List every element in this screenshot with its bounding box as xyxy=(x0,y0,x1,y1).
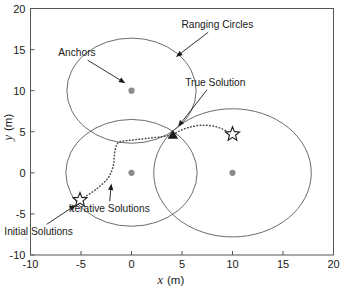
y-axis-title-var: y xyxy=(1,135,15,143)
anchor-marker-0 xyxy=(128,88,134,94)
y-tick-label-5: 15 xyxy=(13,44,25,56)
x-axis-title-unit: (m) xyxy=(167,274,184,286)
y-axis-title-unit: (m) xyxy=(2,114,14,131)
ranging-circles-plot: -10-505101520-10-505101520 Ranging Circl… xyxy=(0,0,346,291)
figure-background xyxy=(0,0,346,291)
x-axis-title: x (m) xyxy=(156,273,184,287)
x-tick-label-4: 10 xyxy=(226,258,238,270)
x-tick-label-3: 5 xyxy=(179,258,185,270)
anchor-marker-1 xyxy=(128,170,134,176)
annotation-label-initial-solutions: Initial Solutions xyxy=(4,226,73,237)
x-tick-label-5: 15 xyxy=(277,258,289,270)
annotation-label-iterative-solutions: Iterative Solutions xyxy=(69,203,150,214)
x-axis-title-var: x xyxy=(156,273,163,287)
y-tick-label-4: 10 xyxy=(13,85,25,97)
x-tick-label-6: 20 xyxy=(327,258,339,270)
y-axis-title: y (m) xyxy=(1,114,15,143)
anchor-marker-2 xyxy=(229,170,235,176)
y-tick-label-6: 20 xyxy=(13,3,25,15)
y-tick-label-1: -5 xyxy=(16,208,26,220)
x-tick-label-1: -5 xyxy=(76,258,86,270)
y-tick-label-2: 0 xyxy=(19,167,25,179)
y-tick-label-0: -10 xyxy=(10,249,26,261)
annotation-label-true-solution: True Solution xyxy=(185,77,245,88)
annotation-label-anchors: Anchors xyxy=(58,47,95,58)
x-tick-label-2: 0 xyxy=(128,258,134,270)
annotation-label-ranging-circles: Ranging Circles xyxy=(181,19,253,30)
y-tick-label-3: 5 xyxy=(19,126,25,138)
figure-root: -10-505101520-10-505101520 Ranging Circl… xyxy=(0,0,346,291)
